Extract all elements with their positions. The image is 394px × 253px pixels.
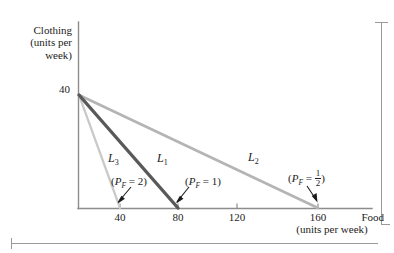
price-annotation-l2: (PF = 12) (288, 170, 325, 189)
y-axis-title-line2: (units per (8, 36, 72, 48)
curve-label-l1-sub: 1 (164, 158, 168, 167)
y-axis-title: Clothing (units per week) (8, 24, 72, 61)
price-annotation-l3: (PF = 2) (111, 175, 147, 191)
curve-label-l2-base: L (248, 150, 255, 164)
y-tick-label-40: 40 (50, 83, 70, 95)
x-axis-ticks (120, 204, 318, 209)
curve-label-l3-base: L (108, 151, 115, 165)
x-axis-title-line1: Food (276, 211, 388, 223)
x-axis-title: Food (units per week) (276, 211, 388, 236)
curve-label-l2: L2 (248, 151, 259, 167)
price-annotation-l3-value: = 2) (126, 175, 147, 187)
fraction-denominator: 2 (315, 179, 322, 188)
y-axis-title-line3: week) (8, 49, 72, 61)
price-annotation-l1-value: = 1) (200, 175, 221, 187)
curve-label-l3-sub: 3 (115, 158, 119, 167)
curve-label-l3: L3 (108, 152, 119, 168)
x-axis-title-line2: (units per week) (276, 223, 388, 235)
y-axis-title-line1: Clothing (8, 24, 72, 36)
curve-label-l2-sub: 2 (255, 157, 259, 166)
price-annotation-l2-fraction: 12 (315, 169, 322, 188)
budget-line-figure: Clothing (units per week) 40 40 80 120 1… (0, 0, 394, 253)
curve-label-l1: L1 (157, 152, 168, 168)
price-annotation-l2-eq: = (303, 172, 315, 184)
price-annotation-l2-close: ) (321, 172, 325, 184)
x-tick-label-80: 80 (163, 211, 193, 223)
price-annotation-l1: (PF = 1) (185, 175, 221, 191)
x-tick-label-120: 120 (222, 211, 252, 223)
x-tick-label-40: 40 (105, 211, 135, 223)
curve-label-l1-base: L (157, 151, 164, 165)
